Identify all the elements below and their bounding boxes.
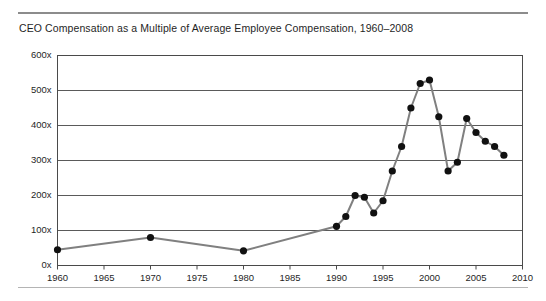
x-axis-tick-label: 1990 xyxy=(317,272,357,283)
x-axis-tick-label: 1960 xyxy=(38,272,78,283)
line-chart-svg xyxy=(0,0,546,301)
data-point-marker xyxy=(342,213,349,220)
data-point-marker xyxy=(435,113,442,120)
data-point-marker xyxy=(454,159,461,166)
data-point-marker xyxy=(361,194,368,201)
data-point-marker xyxy=(370,209,377,216)
x-axis-tick-label: 2010 xyxy=(503,272,543,283)
x-tick-marks-group xyxy=(58,266,523,270)
y-axis-tick-label: 600x xyxy=(18,49,52,60)
series-group xyxy=(54,76,508,254)
data-point-marker xyxy=(398,143,405,150)
x-axis-tick-label: 1980 xyxy=(224,272,264,283)
data-point-marker xyxy=(333,223,340,230)
y-axis-tick-label: 500x xyxy=(18,84,52,95)
series-line xyxy=(58,80,504,251)
x-axis-tick-label: 1985 xyxy=(270,272,310,283)
x-axis-tick-label: 1975 xyxy=(177,272,217,283)
data-point-marker xyxy=(352,192,359,199)
x-axis-tick-label: 1995 xyxy=(363,272,403,283)
data-point-marker xyxy=(417,80,424,87)
data-point-marker xyxy=(445,167,452,174)
data-point-marker xyxy=(54,246,61,253)
y-axis-tick-label: 400x xyxy=(18,119,52,130)
x-axis-tick-label: 1970 xyxy=(131,272,171,283)
x-axis-tick-label: 2005 xyxy=(456,272,496,283)
plot-area xyxy=(0,0,546,301)
gridlines-group xyxy=(58,56,523,231)
data-point-marker xyxy=(426,76,433,83)
x-axis-tick-label: 2000 xyxy=(410,272,450,283)
data-point-marker xyxy=(482,138,489,145)
y-axis-tick-label: 300x xyxy=(18,154,52,165)
x-axis-tick-label: 1965 xyxy=(84,272,124,283)
bottom-divider-rule xyxy=(18,287,528,288)
data-point-marker xyxy=(389,167,396,174)
data-point-marker xyxy=(407,104,414,111)
chart-figure: CEO Compensation as a Multiple of Averag… xyxy=(0,0,546,301)
y-axis-tick-label: 0x xyxy=(18,259,52,270)
data-point-marker xyxy=(463,115,470,122)
data-point-marker xyxy=(491,143,498,150)
data-point-marker xyxy=(379,197,386,204)
y-axis-tick-label: 200x xyxy=(18,189,52,200)
data-point-marker xyxy=(147,234,154,241)
data-point-marker xyxy=(500,152,507,159)
data-point-marker xyxy=(240,247,247,254)
y-axis-tick-label: 100x xyxy=(18,224,52,235)
data-point-marker xyxy=(472,129,479,136)
